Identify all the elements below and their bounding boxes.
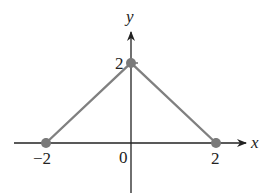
point-2-0 xyxy=(211,138,221,148)
y-tick-label-2: 2 xyxy=(115,54,124,73)
x-tick-label-neg2: −2 xyxy=(33,149,51,168)
graph: y x −2 0 2 2 xyxy=(0,0,264,193)
x-axis-label: x xyxy=(250,133,259,152)
point-0-2 xyxy=(126,58,136,68)
origin-label: 0 xyxy=(119,148,128,167)
point-neg2-0 xyxy=(41,138,51,148)
y-axis-label: y xyxy=(124,7,134,26)
x-tick-label-2: 2 xyxy=(211,149,220,168)
